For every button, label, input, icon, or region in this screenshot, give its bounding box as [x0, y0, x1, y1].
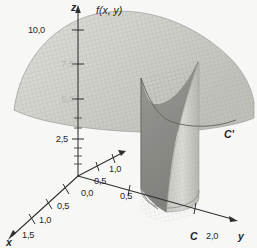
z-tick-label-2-5: 2,5 — [56, 134, 68, 144]
function-label: f(x, y) — [96, 4, 122, 16]
y-axis-label: y — [237, 230, 245, 242]
curve-c-prime-label: C' — [224, 128, 235, 140]
diagonal-tick-label-0-5: 0,5 — [94, 176, 106, 186]
plot-canvas: z f(x, y) 10,0 7,5 5,0 2,5 0,0 0,5 1,0 1… — [0, 0, 257, 248]
x-tick-label-1-0: 1,0 — [39, 215, 51, 225]
x-tick-label-0-5: 0,5 — [57, 201, 69, 211]
y-tick-label-0-5: 0,5 — [120, 191, 132, 201]
y-tick-label-2-0: 2,0 — [206, 231, 218, 241]
z-tick-label-10: 10,0 — [28, 25, 45, 35]
x-axis-label: x — [5, 236, 13, 248]
x-tick-label-1-5: 1,5 — [22, 230, 34, 240]
z-axis-label: z — [70, 1, 77, 13]
curve-c-label: C — [190, 230, 198, 242]
surface-plot-figure: z f(x, y) 10,0 7,5 5,0 2,5 0,0 0,5 1,0 1… — [0, 0, 257, 248]
x-tick-label-0-0: 0,0 — [81, 188, 93, 198]
diagonal-tick-label-1-0: 1,0 — [109, 164, 121, 174]
z-tick-label-5-0: 5,0 — [61, 94, 74, 104]
z-tick-label-7-5: 7,5 — [61, 59, 74, 69]
